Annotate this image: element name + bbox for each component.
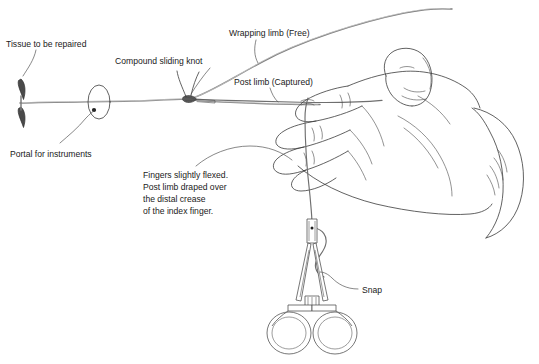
leader-fingers-note <box>196 146 292 166</box>
label-wrapping-limb: Wrapping limb (Free) <box>229 28 310 38</box>
label-tissue: Tissue to be repaired <box>6 39 87 49</box>
label-portal: Portal for instruments <box>10 149 92 159</box>
draped-post-limb-suture <box>301 98 326 277</box>
leader-portal <box>60 111 94 143</box>
label-compound-sliding-knot: Compound sliding knot <box>115 56 203 66</box>
fingers-note-line-3: the distal crease <box>143 194 206 204</box>
wrapping-limb-suture <box>190 8 452 99</box>
leader-snap <box>320 272 358 289</box>
leader-post-limb <box>270 88 278 102</box>
fingers-note-line-2: Post limb draped over <box>143 182 227 192</box>
leader-wrapping-limb <box>255 40 258 63</box>
hemostat-clamp-icon <box>267 219 357 354</box>
fingers-note-line-4: of the index finger. <box>143 206 213 216</box>
surgical-diagram-canvas: Tissue to be repaired Compound sliding k… <box>0 0 539 364</box>
label-post-limb: Post limb (Captured) <box>234 77 313 87</box>
leader-knot <box>191 68 210 94</box>
fingers-note-line-1: Fingers slightly flexed. <box>143 170 228 180</box>
label-fingers-note: Fingers slightly flexed. Post limb drape… <box>143 170 228 216</box>
label-snap: Snap <box>362 285 382 295</box>
knot-cluster-icon <box>177 71 215 103</box>
leader-tissue <box>23 50 36 76</box>
